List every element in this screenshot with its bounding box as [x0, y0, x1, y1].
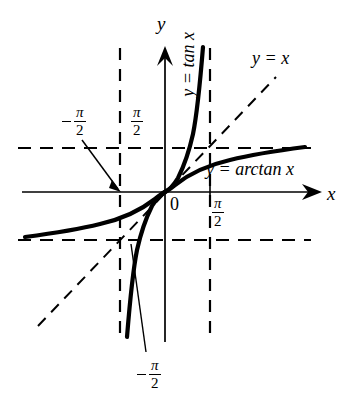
curve-label-tan: y = tan x	[179, 32, 197, 97]
fraction-numerator: π	[131, 105, 143, 122]
y-axis-label: y	[157, 14, 165, 33]
origin-label: 0	[170, 195, 179, 213]
tick-label-pi-over-2-y: π 2	[131, 105, 143, 138]
leader-line-neg-pi-over-2-y	[131, 244, 146, 352]
curve-label-arctan: y = arctan x	[206, 160, 294, 178]
fraction-numerator: π	[149, 358, 161, 375]
figure-canvas: y x 0 y = x y = arctan x y = tan x π 2 π…	[0, 0, 349, 412]
fraction-denominator: 2	[133, 122, 141, 138]
tick-label-neg-pi-over-2-x: π 2	[62, 105, 86, 138]
fraction-denominator: 2	[76, 122, 84, 138]
minus-sign-icon	[62, 121, 71, 123]
tick-label-pi-over-2-x: π 2	[212, 196, 224, 229]
tick-label-neg-pi-over-2-y: π 2	[137, 358, 161, 391]
fraction-numerator: π	[212, 196, 224, 213]
fraction-numerator: π	[74, 105, 86, 122]
fraction-denominator: 2	[214, 213, 222, 229]
curve-label-identity: y = x	[252, 49, 289, 67]
fraction-denominator: 2	[151, 375, 159, 391]
minus-sign-icon	[137, 374, 146, 376]
x-axis-label: x	[327, 184, 335, 203]
